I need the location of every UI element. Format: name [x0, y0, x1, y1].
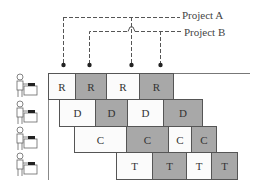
project-b-connector — [90, 27, 183, 64]
task-cell-project-b: C — [191, 126, 217, 153]
task-cell-project-b: C — [126, 126, 169, 153]
task-cell-project-a: T — [116, 152, 153, 180]
task-cell-project-b: T — [211, 152, 238, 180]
task-cell-project-b: R — [75, 73, 107, 100]
task-cell-project-b: D — [95, 99, 128, 127]
milestone-dot — [158, 63, 162, 67]
task-cell-project-a: D — [59, 99, 96, 127]
worker-icon — [13, 152, 39, 178]
worker-icon — [13, 100, 39, 126]
task-cell-project-a: T — [186, 152, 212, 180]
worker-icon — [13, 126, 39, 152]
task-cell-project-b: R — [139, 73, 174, 100]
worker-icon — [13, 73, 39, 99]
milestone-dot — [129, 63, 133, 67]
milestone-dot — [87, 63, 91, 67]
task-cell-project-a: C — [168, 126, 192, 153]
task-cell-project-a: C — [74, 126, 127, 153]
task-cell-project-b: T — [152, 152, 187, 180]
legend-project-b: Project B — [184, 26, 225, 38]
milestone-dots — [61, 63, 162, 67]
task-cell-project-a: R — [106, 73, 140, 100]
task-cell-project-a: R — [48, 73, 76, 100]
milestone-dot — [61, 63, 65, 67]
task-cell-project-a: D — [127, 99, 164, 127]
project-a-connector — [63, 17, 180, 64]
legend-project-a: Project A — [182, 9, 223, 21]
task-cell-project-b: D — [163, 99, 203, 127]
